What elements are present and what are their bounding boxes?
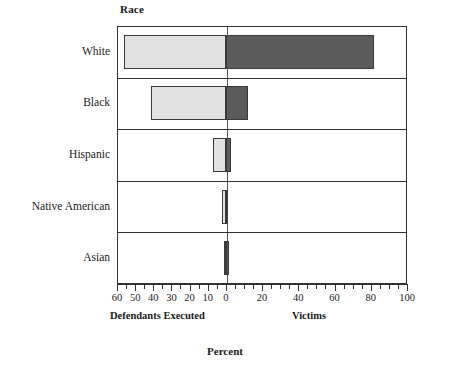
tick-label-80: 80 [366, 292, 377, 303]
tick-label-60: 60 [329, 292, 340, 303]
bar-black-right [226, 86, 248, 120]
tick-30 [280, 284, 281, 289]
tick--45 [144, 284, 145, 289]
tick-label-0: 0 [223, 292, 228, 303]
tick-55 [325, 284, 326, 289]
tick-85 [380, 284, 381, 289]
bar-asian-right [226, 241, 230, 275]
tick-0 [226, 284, 227, 291]
tick--40 [153, 284, 154, 291]
tick-65 [344, 284, 345, 289]
bar-hispanic-left [213, 138, 226, 172]
bar-white-right [226, 35, 375, 69]
category-label-asian: Asian [0, 251, 110, 263]
tick-label-60: 60 [112, 292, 123, 303]
tick-label-20: 20 [184, 292, 195, 303]
tick-5 [235, 284, 236, 289]
tick-20 [262, 284, 263, 291]
tick-95 [398, 284, 399, 289]
tick--15 [199, 284, 200, 289]
tick-label-40: 40 [293, 292, 304, 303]
tick-10 [244, 284, 245, 289]
tick-label-30: 30 [166, 292, 177, 303]
row-divider [117, 181, 407, 182]
row-divider [117, 232, 407, 233]
category-label-black: Black [0, 96, 110, 108]
category-label-hispanic: Hispanic [0, 148, 110, 160]
tick-label-10: 10 [202, 292, 213, 303]
tick-50 [316, 284, 317, 289]
tick-label-20: 20 [257, 292, 268, 303]
y-axis-title: Race [0, 3, 144, 15]
tick-label-50: 50 [130, 292, 141, 303]
tick--55 [126, 284, 127, 289]
bar-black-left [151, 86, 225, 120]
tick-75 [362, 284, 363, 289]
tick-80 [371, 284, 372, 291]
left-series-caption: Defendants Executed [110, 310, 205, 321]
row-divider [117, 129, 407, 130]
tick--30 [171, 284, 172, 291]
tick-45 [307, 284, 308, 289]
tick-15 [253, 284, 254, 289]
row-divider [117, 78, 407, 79]
tick--5 [217, 284, 218, 289]
tick-label-40: 40 [148, 292, 159, 303]
tick--35 [162, 284, 163, 289]
tick-35 [289, 284, 290, 289]
category-label-native-american: Native American [0, 200, 110, 212]
tick-40 [298, 284, 299, 291]
category-label-white: White [0, 45, 110, 57]
tick--20 [190, 284, 191, 291]
tick--50 [135, 284, 136, 291]
tick--10 [208, 284, 209, 291]
tick-100 [407, 284, 408, 291]
tick-25 [271, 284, 272, 289]
bar-hispanic-right [226, 138, 231, 172]
x-axis-title: Percent [0, 345, 450, 357]
bar-chart: Race WhiteBlackHispanicNative AmericanAs… [0, 0, 450, 373]
tick--25 [180, 284, 181, 289]
tick--60 [117, 284, 118, 291]
tick-60 [335, 284, 336, 291]
tick-70 [353, 284, 354, 289]
tick-label-100: 100 [399, 292, 415, 303]
bar-white-left [124, 35, 226, 69]
bar-native-american-right [226, 190, 228, 224]
tick-90 [389, 284, 390, 289]
right-series-caption: Victims [292, 310, 326, 321]
